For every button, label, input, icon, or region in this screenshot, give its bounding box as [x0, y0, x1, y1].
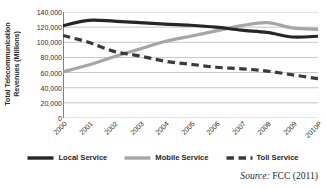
- legend-label: Local Service: [58, 154, 107, 162]
- source-label: Source:: [240, 170, 269, 181]
- y-tick-label: 80,000: [24, 54, 62, 61]
- legend-item-toll-service[interactable]: Toll Service: [226, 153, 299, 163]
- y-tick-label: 40,000: [24, 84, 62, 91]
- plot-area: [63, 12, 318, 118]
- source-value: FCC (2011): [272, 170, 318, 181]
- x-axis-tick-labels: 2000200120022003200420052006200720082009…: [63, 118, 318, 150]
- y-tick-label: 120,000: [24, 24, 62, 31]
- plot-svg: [63, 12, 318, 118]
- legend-item-mobile-service[interactable]: Mobile Service: [124, 153, 208, 163]
- y-tick-label: 140,000: [24, 9, 62, 16]
- y-axis-title-line-2: Revenues (Millions): [12, 31, 21, 97]
- legend-swatch-icon: [124, 153, 151, 163]
- y-tick-label: 100,000: [24, 39, 62, 46]
- legend-swatch-icon: [226, 153, 253, 163]
- legend-label: Mobile Service: [155, 154, 208, 162]
- source-note: Source: FCC (2011): [240, 171, 318, 181]
- legend-item-local-service[interactable]: Local Service: [27, 153, 107, 163]
- y-axis-tick-labels: 140,000120,000100,00080,00060,00040,0002…: [24, 0, 62, 130]
- y-tick-label: 0: [24, 115, 62, 122]
- y-tick-label: 60,000: [24, 69, 62, 76]
- chart-legend: Local ServiceMobile ServiceToll Service: [0, 149, 326, 167]
- legend-label: Toll Service: [257, 154, 299, 162]
- chart-container: Total Telecommunication Revenues (Millio…: [0, 0, 326, 189]
- legend-swatch-icon: [27, 153, 54, 163]
- y-tick-label: 20,000: [24, 99, 62, 106]
- y-axis-title: Total Telecommunication Revenues (Millio…: [0, 6, 26, 121]
